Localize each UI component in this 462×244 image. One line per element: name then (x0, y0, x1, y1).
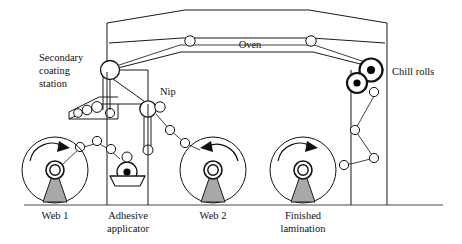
chill-exit-idler-1 (350, 125, 359, 134)
web1-rotation-arrowhead (57, 141, 70, 152)
adhesive-label-line2: applicator (107, 223, 149, 234)
web1-hub-inner (50, 165, 60, 175)
coating-roller-1 (74, 109, 83, 118)
chill-idler-roller (369, 87, 378, 96)
web1-label: Web 1 (42, 210, 69, 221)
secondary-coating-station (69, 61, 148, 120)
web1-idler-2 (92, 136, 101, 145)
web1-idler-1 (75, 142, 84, 151)
web2-path-line (156, 114, 200, 150)
web1-roll-station (22, 137, 88, 203)
finished-label-line2: lamination (281, 223, 327, 234)
web2-label: Web 2 (200, 210, 227, 221)
secondary-coating-station-label: Secondary coating station (39, 52, 84, 89)
adhesive-label-line1: Adhesive (108, 210, 148, 221)
coating-roller-3 (92, 102, 103, 113)
web1-idler-3 (106, 144, 115, 153)
web1-path-group (63, 136, 120, 164)
web2-roll-station (180, 137, 246, 203)
adhesive-dip-roller-hub (123, 168, 130, 175)
web2-hub-inner (208, 165, 218, 175)
finished-lamination-label: Finished lamination (281, 210, 327, 234)
coating-roller-2 (82, 105, 92, 115)
adhesive-pan (110, 176, 145, 186)
secondary-coating-label-line3: station (39, 78, 68, 89)
web2-rotation-arrowhead (200, 141, 213, 152)
web2-path-group (156, 114, 200, 150)
adhesive-top-roller (122, 152, 132, 162)
oven-idler-roller-1 (185, 36, 195, 46)
web2-idler-1 (165, 125, 174, 134)
adhesive-applicator-label: Adhesive applicator (107, 210, 149, 234)
finished-rotation-arrowhead (305, 141, 318, 152)
process-flow-diagram: Oven Secondary coating statio (0, 0, 462, 244)
chill-exit-idler-2 (369, 153, 378, 162)
finished-lamination-station (270, 137, 336, 203)
coating-frame-diagonal (113, 79, 148, 104)
chill-roll-1-hub (367, 66, 375, 74)
process-diagram-root: Oven Secondary coating statio (0, 0, 462, 244)
nip-roller-small (155, 102, 165, 112)
secondary-coating-label-line1: Secondary (39, 52, 84, 63)
nip-label: Nip (160, 86, 176, 97)
secondary-coating-label-line2: coating (39, 65, 71, 76)
secondary-coating-roller (101, 61, 120, 80)
nip-station (140, 101, 165, 155)
adhesive-applicator-station (110, 152, 145, 186)
web2-idler-2 (180, 138, 189, 147)
chill-exit-idler-3 (339, 160, 348, 169)
chill-rolls-station (339, 59, 382, 170)
finished-hub-inner (298, 165, 308, 175)
chill-roll-2-hub (353, 79, 360, 86)
oven-idler-roller-2 (306, 36, 316, 46)
chill-rolls-label: Chill rolls (392, 66, 434, 77)
oven-label: Oven (239, 39, 262, 50)
finished-label-line1: Finished (285, 210, 322, 221)
